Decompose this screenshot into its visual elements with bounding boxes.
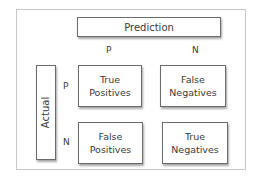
- row-label-negative: N: [63, 137, 70, 147]
- column-label-positive: P: [106, 45, 111, 55]
- cell-tp-line1: True: [89, 73, 131, 86]
- cell-fp-line2: Positives: [90, 143, 132, 156]
- cell-false-positives: False Positives: [78, 122, 143, 164]
- actual-header: Actual: [36, 65, 56, 160]
- cell-tn-line2: Negatives: [171, 143, 219, 156]
- column-label-negative: N: [192, 45, 199, 55]
- prediction-header: Prediction: [77, 17, 221, 37]
- cell-tn-line1: True: [171, 130, 219, 143]
- prediction-label: Prediction: [124, 21, 174, 34]
- actual-label: Actual: [40, 97, 53, 128]
- cell-fn-line2: Negatives: [169, 86, 217, 99]
- cell-false-negatives: False Negatives: [160, 65, 226, 107]
- cell-true-positives: True Positives: [78, 65, 142, 107]
- row-label-positive: P: [63, 81, 68, 91]
- cell-fn-line1: False: [169, 73, 217, 86]
- cell-tp-line2: Positives: [89, 86, 131, 99]
- cell-fp-line1: False: [90, 130, 132, 143]
- cell-true-negatives: True Negatives: [162, 122, 228, 164]
